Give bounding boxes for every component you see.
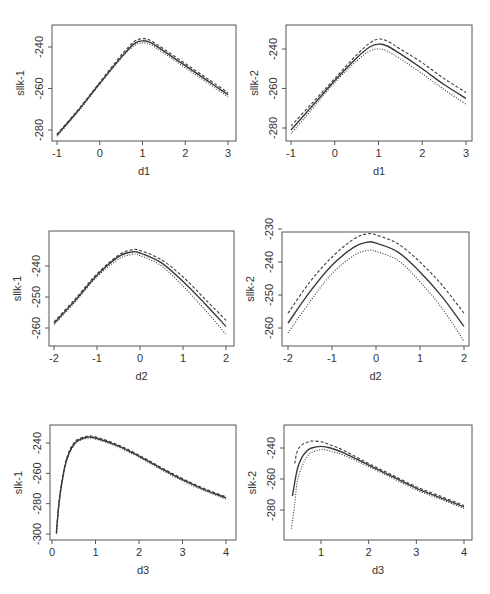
x-tick-label: 0 (97, 147, 103, 159)
curves (291, 39, 466, 134)
curve-estimate (54, 252, 226, 327)
x-tick-label: 1 (139, 147, 145, 159)
x-tick-label: 4 (461, 546, 467, 558)
x-tick-label: -2 (49, 352, 59, 364)
y-ticks: -240-260-280-300 (31, 432, 50, 545)
y-tick-label: -240 (265, 437, 277, 459)
curve-estimate (291, 44, 466, 130)
x-ticks: 01234 (49, 540, 229, 558)
x-tick-label: 1 (375, 147, 381, 159)
y-ticks: -240-250-260 (30, 255, 49, 339)
x-ticks: -2-1012 (49, 346, 229, 364)
y-axis-label: slk-1 (12, 471, 24, 494)
curve-lower (291, 450, 464, 529)
x-tick-label: 2 (366, 546, 372, 558)
y-ticks: -230-240-250-260 (263, 218, 282, 339)
curve-lower (288, 250, 464, 341)
x-tick-label: -2 (283, 352, 293, 364)
x-ticks: -10123 (52, 141, 231, 159)
y-tick-label: -260 (265, 468, 277, 490)
x-axis-label: d2 (135, 370, 147, 382)
x-tick-label: 1 (318, 546, 324, 558)
curves (54, 249, 226, 334)
y-ticks: -240-260-280 (265, 437, 284, 521)
curve-lower (56, 438, 226, 534)
panel-bottom-right: 1234 -240-260-280 d3 slk-2 (246, 425, 472, 576)
x-tick-label: 1 (417, 352, 423, 364)
x-tick-label: 3 (179, 546, 185, 558)
y-tick-label: -260 (33, 77, 45, 99)
x-tick-label: 1 (180, 352, 186, 364)
x-tick-label: -1 (327, 352, 337, 364)
y-tick-label: -240 (33, 36, 45, 58)
curve-upper (56, 436, 226, 533)
y-tick-label: -230 (263, 218, 275, 240)
curve-upper (291, 39, 466, 126)
curve-upper (295, 441, 464, 505)
plot-box (282, 232, 469, 346)
x-tick-label: 4 (223, 546, 229, 558)
y-tick-label: -280 (265, 499, 277, 521)
curves (56, 436, 226, 534)
x-tick-label: 1 (92, 546, 98, 558)
curve-estimate (292, 446, 464, 507)
x-axis-label: d1 (138, 165, 150, 177)
y-tick-label: -300 (31, 523, 43, 545)
y-tick-label: -260 (31, 462, 43, 484)
y-axis-label: sllk-1 (11, 276, 23, 302)
x-tick-label: 0 (373, 352, 379, 364)
x-tick-label: -1 (286, 147, 296, 159)
y-tick-label: -240 (267, 38, 279, 60)
curve-lower (291, 49, 466, 134)
y-axis-label: sllk-2 (244, 276, 256, 302)
curve-upper (57, 39, 228, 135)
x-tick-label: 2 (182, 147, 188, 159)
x-axis-label: d1 (373, 165, 385, 177)
y-tick-label: -280 (33, 119, 45, 141)
y-tick-label: -260 (30, 317, 42, 339)
x-tick-label: 3 (413, 546, 419, 558)
y-tick-label: -280 (267, 117, 279, 139)
y-ticks: -240-260-280 (267, 38, 286, 139)
y-axis-label: slk-2 (246, 471, 258, 494)
x-tick-label: 2 (461, 352, 467, 364)
x-axis-label: d3 (137, 564, 149, 576)
y-tick-label: -250 (30, 286, 42, 308)
panel-top-right: -10123 -240-260-280 d1 sllk-2 (248, 25, 472, 177)
x-tick-label: 2 (419, 147, 425, 159)
curve-upper (288, 234, 464, 314)
curve-estimate (57, 41, 228, 135)
x-tick-label: 3 (463, 147, 469, 159)
curves (288, 234, 464, 342)
plot-box (49, 231, 234, 346)
x-axis-label: d2 (369, 370, 381, 382)
x-axis-label: d3 (372, 564, 384, 576)
y-tick-label: -240 (30, 255, 42, 277)
curve-lower (57, 43, 228, 136)
panel-bottom-left: 01234 -240-260-280-300 d3 slk-1 (12, 425, 236, 576)
plot-box (284, 425, 472, 540)
curves (291, 441, 464, 529)
curve-estimate (288, 242, 464, 327)
y-tick-label: -240 (263, 251, 275, 273)
y-tick-label: -250 (263, 284, 275, 306)
x-tick-label: 0 (332, 147, 338, 159)
figure: -10123 -240-260-280 d1 sllk-1 -10123 -24… (0, 0, 490, 594)
y-tick-label: -280 (31, 493, 43, 515)
x-tick-label: -1 (52, 147, 62, 159)
x-tick-label: 3 (225, 147, 231, 159)
x-tick-label: 0 (49, 546, 55, 558)
y-ticks: -240-260-280 (33, 36, 52, 141)
x-tick-label: -1 (92, 352, 102, 364)
curves (57, 39, 228, 137)
y-tick-label: -260 (267, 77, 279, 99)
curve-upper (54, 249, 226, 322)
y-axis-label: sllk-1 (14, 70, 26, 96)
panel-top-left: -10123 -240-260-280 d1 sllk-1 (14, 25, 236, 177)
panel-middle-left: -2-1012 -240-250-260 d2 sllk-1 (11, 231, 234, 382)
curve-estimate (56, 437, 226, 533)
y-tick-label: -240 (31, 432, 43, 454)
panel-middle-right: -2-1012 -230-240-250-260 d2 sllk-2 (244, 218, 469, 382)
x-ticks: -2-1012 (283, 346, 467, 364)
plot-box (286, 25, 472, 141)
